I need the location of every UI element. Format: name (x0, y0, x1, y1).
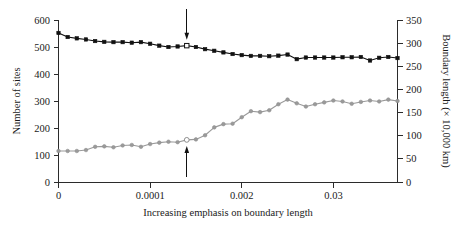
data-point (313, 56, 316, 59)
data-point (84, 148, 88, 152)
series-boundary-length (57, 98, 400, 153)
series-line (59, 100, 398, 151)
data-point (167, 45, 170, 48)
data-point (75, 149, 79, 153)
left-tick-label-500: 500 (34, 42, 50, 53)
data-point (222, 122, 226, 126)
x-axis-title: Increasing emphasis on boundary length (143, 207, 313, 218)
data-point (231, 52, 234, 55)
data-point (121, 144, 125, 148)
data-point-highlighted (184, 137, 189, 142)
data-point (57, 149, 61, 153)
right-tick-label-350: 350 (406, 15, 422, 26)
x-tick-label-2: 0.002 (230, 190, 254, 201)
data-point (277, 54, 280, 57)
data-point (158, 44, 161, 47)
data-point (295, 57, 298, 60)
right-tick-label-0: 0 (406, 177, 411, 188)
chart-canvas: 0 100 200 300 400 500 600 Number of site… (0, 0, 460, 234)
data-point (249, 109, 253, 113)
right-tick-label-300: 300 (406, 38, 422, 49)
x-tick-label-3: 0.03 (324, 190, 342, 201)
bottom-axis-ticks (59, 183, 334, 188)
data-point (139, 40, 142, 43)
data-point (359, 55, 362, 58)
data-point (240, 53, 243, 56)
data-point (322, 101, 326, 105)
data-point (66, 35, 69, 38)
data-point (203, 133, 207, 137)
x-tick-label-0: 0 (56, 190, 61, 201)
data-point (267, 108, 271, 112)
data-point (313, 102, 317, 106)
right-tick-label-100: 100 (406, 130, 422, 141)
data-point (157, 141, 161, 145)
left-tick-label-200: 200 (34, 123, 50, 134)
data-point (75, 37, 78, 40)
chart-figure: 0 100 200 300 400 500 600 Number of site… (0, 0, 460, 234)
data-point (121, 40, 124, 43)
data-point (377, 56, 380, 59)
data-point (176, 140, 180, 144)
series-line (59, 33, 398, 61)
data-point (295, 102, 299, 106)
right-axis-title: Boundary length (× 10,000 km) (440, 34, 452, 168)
right-tick-label-150: 150 (406, 107, 422, 118)
data-point (148, 142, 152, 146)
left-tick-label-0: 0 (45, 177, 50, 188)
data-point (148, 42, 151, 45)
data-point (359, 100, 363, 104)
data-point (213, 49, 216, 52)
data-point (93, 145, 97, 149)
left-axis-ticks (54, 20, 59, 182)
right-axis: 0 50 100 150 200 250 300 350 Boundary le… (398, 15, 453, 188)
data-point (258, 110, 262, 114)
data-point (112, 145, 116, 149)
left-tick-label-300: 300 (34, 96, 50, 107)
data-point (194, 138, 198, 142)
data-point (112, 40, 115, 43)
data-point (249, 54, 252, 57)
data-point (323, 56, 326, 59)
data-point (176, 45, 179, 48)
data-point (212, 126, 216, 130)
data-point (396, 99, 400, 103)
right-tick-label-250: 250 (406, 61, 422, 72)
data-point (387, 55, 390, 58)
data-point (368, 99, 372, 103)
data-point (286, 53, 289, 56)
data-point (130, 143, 134, 147)
right-tick-label-200: 200 (406, 84, 422, 95)
data-point (277, 102, 281, 106)
series-number-of-sites (57, 31, 399, 62)
data-point (139, 145, 143, 149)
data-point (57, 31, 60, 34)
left-tick-label-400: 400 (34, 69, 50, 80)
data-point (130, 41, 133, 44)
left-axis-title: Number of sites (11, 67, 22, 134)
left-tick-label-600: 600 (34, 15, 50, 26)
data-point-highlighted (185, 43, 189, 47)
data-point (258, 54, 261, 57)
bottom-axis: 0 0.0001 0.002 0.03 Increasing emphasis … (56, 183, 398, 219)
data-point (377, 100, 381, 104)
data-point (332, 99, 336, 103)
data-point (304, 56, 307, 59)
data-point (350, 102, 354, 106)
data-point (103, 145, 107, 149)
data-point (167, 140, 171, 144)
data-point (103, 40, 106, 43)
data-point (387, 98, 391, 102)
data-point (231, 122, 235, 126)
lower-arrow-head (184, 146, 189, 153)
data-point (66, 149, 70, 153)
left-axis: 0 100 200 300 400 500 600 Number of site… (11, 15, 59, 188)
data-point (93, 39, 96, 42)
data-point (368, 59, 371, 62)
data-point (240, 115, 244, 119)
data-point (341, 56, 344, 59)
data-point (396, 56, 399, 59)
data-point (203, 47, 206, 50)
right-tick-label-50: 50 (406, 153, 417, 164)
data-point (332, 56, 335, 59)
